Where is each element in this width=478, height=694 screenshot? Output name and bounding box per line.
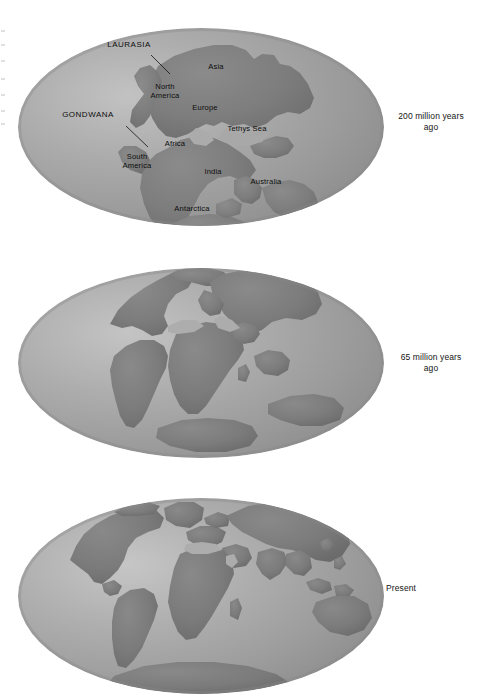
label-australia: Australia: [241, 177, 291, 186]
label-gondwana: GONDWANA: [52, 110, 124, 119]
globe-present: [18, 498, 384, 694]
caption-present: Present: [386, 583, 476, 594]
caption-65ma: 65 million years ago: [386, 352, 476, 374]
caption-200ma: 200 million years ago: [386, 111, 476, 133]
caption-present-line1: Present: [386, 583, 416, 593]
label-africa: Africa: [155, 139, 195, 148]
panel-65ma: [18, 268, 384, 458]
label-antarctica: Antarctica: [163, 204, 221, 213]
label-south-america: South America: [110, 152, 164, 170]
label-india: India: [197, 167, 229, 176]
label-laurasia: LAURASIA: [98, 40, 160, 49]
caption-200ma-line1: 200 million years: [398, 111, 463, 121]
panel-present: [18, 498, 384, 694]
caption-65ma-line1: 65 million years: [401, 352, 462, 362]
panel-200ma: [18, 28, 384, 226]
caption-200ma-line2: ago: [424, 122, 438, 132]
globe-200ma: [18, 28, 384, 226]
globe-65ma: [18, 268, 384, 458]
label-europe: Europe: [184, 103, 226, 112]
scan-artifact: [1, 30, 7, 125]
label-north-america: North America: [138, 82, 192, 100]
label-tethys-sea: Tethys Sea: [218, 124, 276, 133]
label-asia: Asia: [199, 62, 233, 71]
caption-65ma-line2: ago: [424, 363, 438, 373]
